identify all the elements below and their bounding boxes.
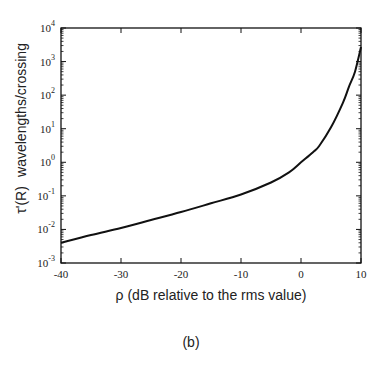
y-axis-ticks: 10410310210110010-110-210-3 bbox=[37, 19, 361, 269]
x-tick-label: -30 bbox=[114, 268, 129, 280]
y-tick-label: 10-2 bbox=[37, 220, 55, 235]
x-tick-label: -40 bbox=[54, 268, 69, 280]
y-tick-label: 100 bbox=[40, 153, 55, 168]
x-tick-label: -10 bbox=[234, 268, 249, 280]
x-tick-label: -20 bbox=[174, 268, 189, 280]
chart: 10410310210110010-110-210-3 -40-30-20-10… bbox=[0, 0, 382, 370]
x-tick-label: 10 bbox=[356, 268, 368, 280]
x-axis-ticks: -40-30-20-10010 bbox=[54, 28, 367, 280]
y-tick-label: 101 bbox=[40, 120, 55, 135]
figure-caption: (b) bbox=[0, 334, 382, 350]
y-tick-label: 103 bbox=[40, 53, 55, 68]
y-axis-symbol: τ'(R) bbox=[13, 186, 29, 214]
y-tick-label: 10-3 bbox=[37, 254, 55, 269]
y-axis-label: τ'(R) wavelengths/crossing bbox=[13, 43, 29, 214]
y-tick-label: 104 bbox=[40, 19, 55, 34]
y-tick-label: 10-1 bbox=[37, 187, 55, 202]
y-axis-unit: wavelengths/crossing bbox=[13, 43, 29, 178]
plot-frame bbox=[61, 28, 361, 263]
x-axis-label: ρ (dB relative to the rms value) bbox=[116, 287, 307, 303]
x-tick-label: 0 bbox=[298, 268, 304, 280]
y-tick-label: 102 bbox=[40, 86, 55, 101]
data-curve bbox=[61, 47, 361, 243]
